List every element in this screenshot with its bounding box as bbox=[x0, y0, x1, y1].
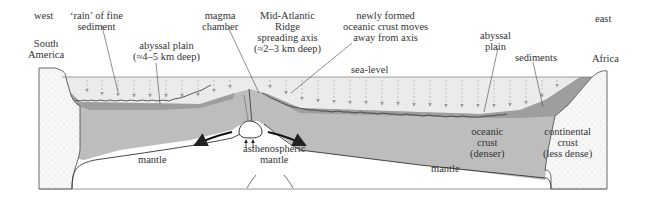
label-mantle-left: mantle bbox=[138, 154, 167, 165]
label-line: abyssal bbox=[480, 30, 511, 41]
label-line: Ridge bbox=[254, 21, 321, 32]
label-sediments: sediments bbox=[515, 52, 557, 63]
cross-section bbox=[39, 26, 607, 189]
label-line: mantle bbox=[243, 154, 305, 165]
label-new-crust: newly formed oceanic crust moves away fr… bbox=[343, 10, 428, 43]
label-line: abyssal plain bbox=[133, 40, 200, 51]
label-line: newly formed bbox=[343, 10, 428, 21]
label-line: asthenospheric bbox=[243, 143, 305, 154]
label-line: South bbox=[28, 38, 64, 49]
label-sea-level: sea-level bbox=[351, 64, 388, 75]
label-east: east bbox=[595, 13, 611, 24]
label-abyssal-plain-east: abyssal plain bbox=[480, 30, 511, 52]
label-magma-chamber: magma chamber bbox=[202, 10, 238, 32]
label-line: oceanic crust moves bbox=[343, 21, 428, 32]
label-line: away from axis bbox=[343, 32, 428, 43]
label-abyssal-plain-west: abyssal plain (≈4–5 km deep) bbox=[133, 40, 200, 62]
label-line: chamber bbox=[202, 21, 238, 32]
label-continental-crust: continental crust (less dense) bbox=[543, 126, 592, 159]
label-line: crust bbox=[543, 137, 592, 148]
label-line: (denser) bbox=[470, 148, 504, 159]
label-line: (≈2–3 km deep) bbox=[254, 43, 321, 54]
label-line: magma bbox=[202, 10, 238, 21]
label-line: oceanic bbox=[470, 126, 504, 137]
label-west: west bbox=[34, 10, 53, 21]
label-line: crust bbox=[470, 137, 504, 148]
label-line: Mid-Atlantic bbox=[254, 10, 321, 21]
label-mantle-right: mantle bbox=[431, 163, 460, 174]
label-oceanic-crust: oceanic crust (denser) bbox=[470, 126, 504, 159]
label-asthenospheric-mantle: asthenospheric mantle bbox=[243, 143, 305, 165]
label-line: spreading axis bbox=[254, 32, 321, 43]
label-line: continental bbox=[543, 126, 592, 137]
label-south-america: South America bbox=[28, 38, 64, 60]
label-line: (≈4–5 km deep) bbox=[133, 51, 200, 62]
label-line: America bbox=[28, 49, 64, 60]
label-line: sediment bbox=[70, 21, 123, 32]
label-ridge: Mid-Atlantic Ridge spreading axis (≈2–3 … bbox=[254, 10, 321, 54]
label-rain-sediment: ‘rain’ of fine sediment bbox=[70, 10, 123, 32]
label-line: ‘rain’ of fine bbox=[70, 10, 123, 21]
label-africa: Africa bbox=[592, 53, 619, 64]
label-line: (less dense) bbox=[543, 148, 592, 159]
label-line: plain bbox=[480, 41, 511, 52]
